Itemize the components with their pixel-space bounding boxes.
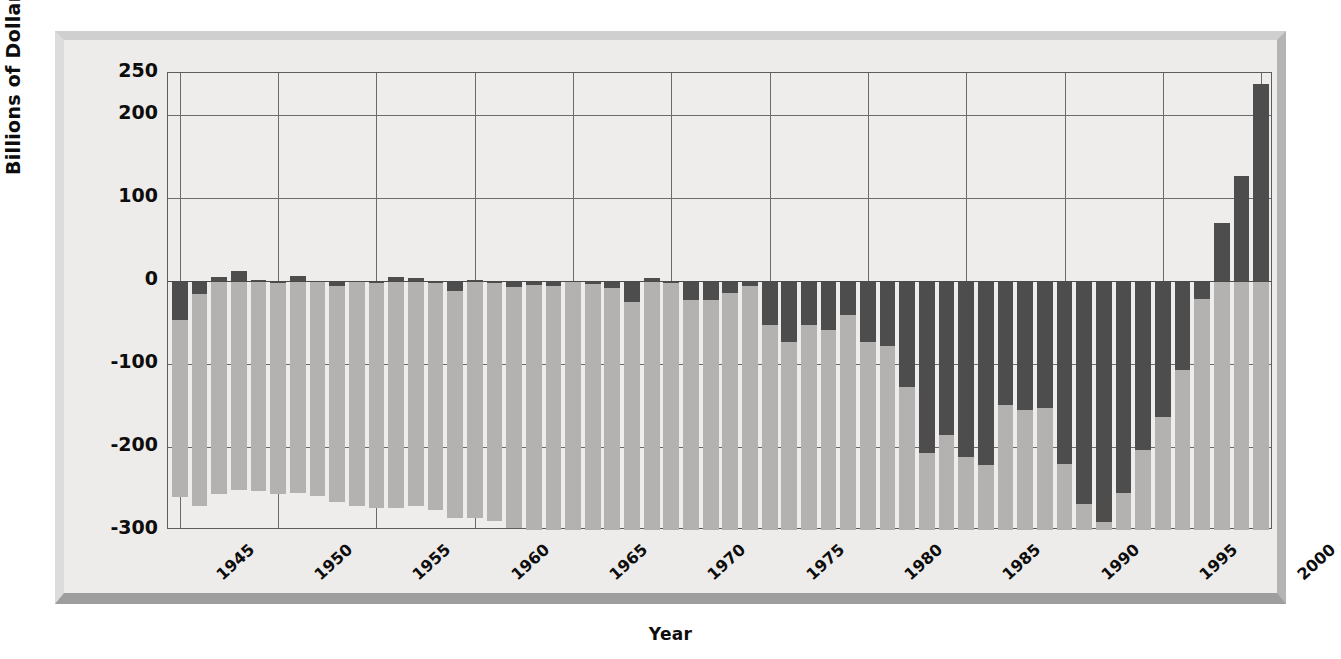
bar-deficit-surplus — [1175, 281, 1191, 370]
bar-deficit-surplus — [1116, 281, 1132, 493]
bar-deficit-surplus — [958, 281, 974, 457]
plot-area — [167, 72, 1272, 529]
bar-national-debt — [329, 281, 345, 502]
bar-deficit-surplus — [447, 281, 463, 292]
bar-deficit-surplus — [762, 281, 778, 325]
bar-national-debt — [585, 281, 601, 530]
bar-national-debt — [211, 281, 227, 495]
x-axis-tick-label: 1955 — [409, 540, 455, 584]
bar-deficit-surplus — [703, 281, 719, 300]
bar-national-debt — [349, 281, 365, 506]
bar-deficit-surplus — [801, 281, 817, 326]
bar-deficit-surplus — [978, 281, 994, 465]
y-axis-tick-labels: 2502001000-100-200-300 — [48, 72, 158, 529]
x-axis-tick-labels: 1945195019551960196519701975198019851990… — [167, 534, 1272, 604]
x-axis-tick-label: 1950 — [311, 540, 357, 584]
gridline-horizontal — [168, 115, 1271, 116]
bar-national-debt — [467, 281, 483, 519]
bar-deficit-surplus — [781, 281, 797, 342]
x-axis-tick-label: 1945 — [212, 540, 258, 584]
bar-national-debt — [369, 281, 385, 509]
bar-national-debt — [251, 281, 267, 491]
bar-deficit-surplus — [722, 281, 738, 293]
bar-national-debt — [310, 281, 326, 496]
bar-national-debt — [1234, 281, 1250, 530]
x-axis-tick-label: 1995 — [1195, 540, 1241, 584]
bar-national-debt — [742, 281, 758, 530]
bar-national-debt — [526, 281, 542, 530]
gridline-horizontal — [168, 198, 1271, 199]
bar-national-debt — [388, 281, 404, 508]
bar-national-debt — [192, 281, 208, 506]
bar-national-debt — [624, 281, 640, 530]
bar-national-debt — [722, 281, 738, 530]
x-axis-tick-label: 1970 — [704, 540, 750, 584]
bar-national-debt — [565, 281, 581, 530]
bar-deficit-surplus — [821, 281, 837, 330]
y-axis-tick-label: -100 — [58, 350, 158, 372]
y-axis-title: Billions of Dollars — [2, 0, 24, 175]
bar-national-debt — [703, 281, 719, 530]
x-axis-tick-label: 2000 — [1294, 540, 1340, 584]
bar-deficit-surplus — [1155, 281, 1171, 417]
bar-deficit-surplus — [939, 281, 955, 435]
bar-deficit-surplus — [1234, 176, 1250, 280]
bar-national-debt — [1214, 281, 1230, 530]
bar-deficit-surplus — [899, 281, 915, 387]
bar-deficit-surplus — [1057, 281, 1073, 465]
bar-national-debt — [447, 281, 463, 518]
bar-national-debt — [546, 281, 562, 530]
bar-national-debt — [487, 281, 503, 521]
x-axis-title: Year — [0, 624, 1341, 644]
y-axis-tick-label: -300 — [58, 516, 158, 538]
y-axis-tick-label: 100 — [58, 184, 158, 206]
bar-national-debt — [290, 281, 306, 493]
bar-deficit-surplus — [1037, 281, 1053, 408]
y-axis-tick-label: 250 — [58, 59, 158, 81]
bar-deficit-surplus — [840, 281, 856, 315]
bar-deficit-surplus — [192, 281, 208, 294]
bar-national-debt — [270, 281, 286, 495]
bar-deficit-surplus — [998, 281, 1014, 405]
bar-national-debt — [231, 281, 247, 490]
bar-national-debt — [644, 281, 660, 530]
y-axis-tick-label: -200 — [58, 433, 158, 455]
bar-deficit-surplus — [604, 281, 620, 288]
bar-national-debt — [506, 281, 522, 529]
bar-deficit-surplus — [624, 281, 640, 302]
x-axis-tick-label: 1985 — [999, 540, 1045, 584]
bar-deficit-surplus — [231, 271, 247, 281]
bar-deficit-surplus — [1135, 281, 1151, 450]
bar-deficit-surplus — [1017, 281, 1033, 410]
bar-national-debt — [840, 281, 856, 530]
bar-national-debt — [428, 281, 444, 510]
bar-national-debt — [1194, 281, 1210, 530]
bar-deficit-surplus — [172, 281, 188, 321]
bar-national-debt — [604, 281, 620, 530]
bar-deficit-surplus — [860, 281, 876, 342]
bar-deficit-surplus — [1253, 84, 1269, 280]
x-axis-tick-label: 1975 — [802, 540, 848, 584]
bar-deficit-surplus — [919, 281, 935, 454]
bar-deficit-surplus — [1076, 281, 1092, 505]
bar-national-debt — [663, 281, 679, 530]
y-axis-tick-label: 200 — [58, 101, 158, 123]
bar-national-debt — [683, 281, 699, 530]
bar-deficit-surplus — [1194, 281, 1210, 299]
bar-national-debt — [1253, 281, 1269, 530]
x-axis-tick-label: 1960 — [507, 540, 553, 584]
y-axis-tick-label: 0 — [58, 267, 158, 289]
x-axis-tick-label: 1990 — [1097, 540, 1143, 584]
bar-deficit-surplus — [1214, 223, 1230, 281]
bar-national-debt — [408, 281, 424, 506]
zero-baseline — [168, 281, 1271, 282]
bar-deficit-surplus — [1096, 281, 1112, 522]
bar-deficit-surplus — [880, 281, 896, 347]
bar-deficit-surplus — [683, 281, 699, 300]
x-axis-tick-label: 1965 — [605, 540, 651, 584]
x-axis-tick-label: 1980 — [900, 540, 946, 584]
